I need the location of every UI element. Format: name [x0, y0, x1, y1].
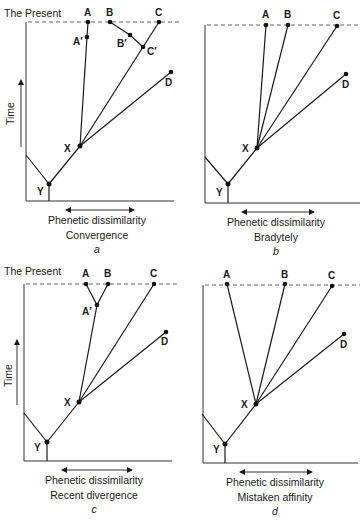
- time-label: Time: [2, 364, 14, 387]
- present-label: The Present: [4, 265, 61, 277]
- node-label-C: C: [150, 268, 157, 279]
- node-label-B: B: [104, 268, 111, 279]
- panel-caption: Convergence: [66, 229, 129, 241]
- panel-letter: d: [272, 505, 279, 517]
- node-label-C: C: [333, 10, 340, 21]
- node-label-Y: Y: [34, 442, 41, 453]
- xaxis-label: Phenetic dissimilarity: [226, 476, 325, 488]
- xaxis-label: Phenetic dissimilarity: [45, 474, 144, 486]
- node-label-A: A: [262, 9, 269, 20]
- panel-caption: Bradytely: [254, 231, 299, 243]
- node-label-A-prime: A′: [82, 306, 92, 317]
- node-label-B: B: [106, 7, 113, 18]
- xaxis-label: Phenetic dissimilarity: [48, 214, 147, 226]
- panel-c: The Present Time A B A′ C D X Y Phenetic…: [2, 265, 178, 515]
- panel-caption: Recent divergence: [50, 489, 138, 501]
- node-label-D: D: [342, 79, 349, 90]
- node-label-D: D: [161, 336, 168, 347]
- panel-letter: c: [91, 503, 97, 515]
- xaxis-label: Phenetic dissimilarity: [227, 216, 326, 228]
- node-label-X: X: [242, 143, 249, 154]
- node-label-C: C: [328, 270, 335, 281]
- panel-a: The Present Time A A′ B B′ C′ C D X Y Ph…: [4, 7, 180, 255]
- node-label-Y: Y: [213, 444, 220, 455]
- phylogeny-figure: The Present Time A A′ B B′ C′ C D X Y Ph…: [0, 0, 362, 525]
- panel-caption: Mistaken affinity: [237, 491, 313, 503]
- node-label-C: C: [155, 7, 162, 18]
- node-label-D: D: [340, 339, 347, 350]
- time-label: Time: [4, 102, 16, 125]
- node-label-A-prime: A′: [73, 36, 83, 47]
- node-label-A: A: [82, 268, 89, 279]
- node-label-A: A: [223, 269, 230, 280]
- panel-letter: a: [94, 243, 100, 255]
- panel-d: A B C D X Y Phenetic dissimilarity Mista…: [202, 269, 360, 517]
- node-label-B-prime: B′: [117, 38, 127, 49]
- panel-b: A B C D X Y Phenetic dissimilarity Brady…: [205, 9, 360, 257]
- present-label: The Present: [4, 7, 61, 19]
- node-label-Y: Y: [216, 187, 223, 198]
- node-label-B: B: [284, 9, 291, 20]
- node-label-Y: Y: [37, 186, 44, 197]
- panel-letter: b: [273, 245, 279, 257]
- node-label-X: X: [241, 399, 248, 410]
- node-label-D: D: [165, 77, 172, 88]
- node-label-X: X: [64, 143, 71, 154]
- node-label-B: B: [281, 269, 288, 280]
- node-label-X: X: [64, 397, 71, 408]
- node-label-A: A: [84, 7, 91, 18]
- node-label-C-prime: C′: [147, 46, 157, 57]
